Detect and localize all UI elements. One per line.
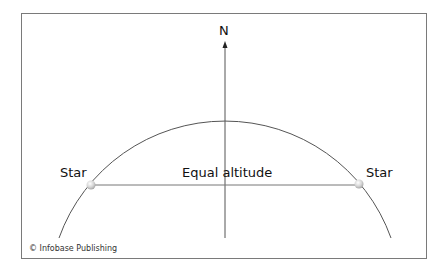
equal-altitude-label: Equal altitude [182, 165, 272, 180]
north-arrowhead-icon [223, 41, 228, 48]
celestial-diagram [0, 0, 446, 271]
star-right-label: Star [366, 165, 393, 180]
star-left-label: Star [60, 165, 87, 180]
credit-text: © Infobase Publishing [29, 244, 117, 253]
north-label: N [219, 23, 229, 38]
star-right-icon [355, 180, 364, 189]
star-left-icon [87, 181, 96, 190]
